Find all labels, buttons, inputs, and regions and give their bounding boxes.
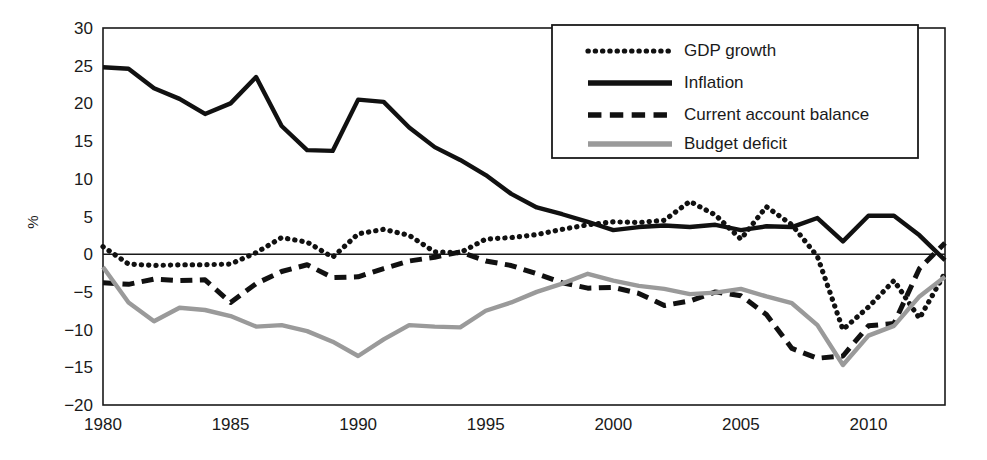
- x-tick-label: 2000: [594, 415, 632, 434]
- x-tick-label: 1980: [84, 415, 122, 434]
- y-axis-title: %: [24, 215, 41, 228]
- y-tick-label: −15: [64, 358, 93, 377]
- x-tick-label: 1995: [467, 415, 505, 434]
- x-tick-label: 2010: [850, 415, 888, 434]
- legend-label-current-account-balance: Current account balance: [684, 105, 869, 124]
- legend-label-gdp-growth: GDP growth: [684, 41, 776, 60]
- y-tick-label: 5: [84, 208, 93, 227]
- x-tick-label: 2005: [722, 415, 760, 434]
- x-tick-label: 1985: [212, 415, 250, 434]
- y-tick-label: −10: [64, 321, 93, 340]
- line-chart: 302520151050−5−10−15−20 1980198519901995…: [0, 0, 987, 460]
- legend-label-budget-deficit: Budget deficit: [684, 134, 787, 153]
- y-tick-label: 20: [74, 94, 93, 113]
- y-tick-label: 30: [74, 19, 93, 38]
- y-tick-label: 0: [84, 245, 93, 264]
- legend: GDP growthInflationCurrent account balan…: [552, 25, 918, 158]
- y-tick-label: 25: [74, 57, 93, 76]
- x-tick-label: 1990: [339, 415, 377, 434]
- y-tick-label: −5: [74, 283, 93, 302]
- y-tick-label: 15: [74, 132, 93, 151]
- legend-label-inflation: Inflation: [684, 73, 744, 92]
- y-tick-label: −20: [64, 396, 93, 415]
- y-tick-label: 10: [74, 170, 93, 189]
- chart-container: 302520151050−5−10−15−20 1980198519901995…: [0, 0, 987, 460]
